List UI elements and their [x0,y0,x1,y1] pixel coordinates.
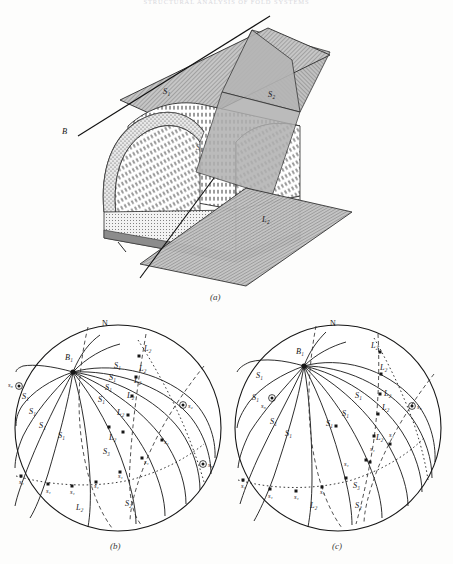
l2-label-c-1: L₂ [379,363,388,372]
s1-point-label-c-5: s₁ [370,445,375,452]
s3-label-c: S₃ [353,481,360,490]
s1-label-b-6: S₁ [39,421,46,430]
north-label-b: N [102,319,108,328]
north-label-c: N [330,319,336,328]
s1-point-label-c-4: s₁ [344,460,349,467]
s1-label-c-4: S₁ [355,391,362,400]
b1-axis-point-c [301,363,306,368]
s2-point-label-c: s₂ [417,403,423,410]
s2-point-label-b: s₂ [188,402,194,409]
b1-label-c: B₁ [296,347,304,356]
s1-label-c-0: S₁ [256,371,263,380]
l2-label-c-2: L₂ [383,389,392,398]
s3-label-b: S₃ [103,447,110,456]
b1-label-b: B₁ [65,353,73,362]
l2-label-b-6: L₂ [75,503,84,512]
b-axis-label: B [62,127,67,136]
s1-point-label-b-0: s₁ [19,478,24,485]
l2-label-c-0: L₂ [370,341,379,350]
s1-point-label-b-3: s₁ [94,482,99,489]
l2-label-b-2: L₂ [133,376,142,385]
l2-label-b-4: L₂ [116,408,125,417]
corner-tick [118,242,126,252]
s2-label-b: S₂ [125,499,132,508]
stereonet-c-figure: N B₁ S₁ S₁ S₁ S₁ S₁ S₁ S₁ L₂ L₂ L₂ L₂ L₂… [228,318,448,538]
caption-c: (c) [332,541,342,551]
s1-point-label-b-6: s₁ [164,438,169,445]
s1-label-c-1: S₁ [252,393,259,402]
s2-label-c: S₂ [355,501,362,510]
s3-point-left [16,383,23,390]
s1-point-label-c-1: s₁ [268,492,273,499]
s3-point-label-b-1: s₃ [208,461,214,468]
s1-label-b-5: S₁ [29,407,36,416]
l2-label-b-3: L₂ [126,391,135,400]
s1-point-label-c-6: s₁ [389,431,394,438]
s1-label-b-2: S₁ [105,383,112,392]
l2-label-b-5: L₂ [108,433,117,442]
s1-folded-surface-label: S₁ [196,143,203,152]
caption-b: (b) [110,541,121,551]
s1-plane-label: S₁ [163,87,170,96]
l2-lineation-label: L₂ [261,215,270,224]
s2-plane-label: S₂ [268,90,275,99]
s1-point-label-b-1: s₁ [46,487,51,494]
l2-label-c-5: L₂ [309,501,318,510]
primitive-circle-c [235,325,441,531]
s1-label-b-3: S₁ [98,395,105,404]
s1-label-b-0: S₁ [114,361,121,370]
s1-label-c-5: S₁ [342,409,349,418]
s3-point-label-b-0: s₃ [8,381,14,388]
l2-label-c-3: L₂ [381,403,390,412]
caption-a: (a) [210,292,221,302]
s1-point-label-c-0: s₁ [241,482,246,489]
s1-label-b-4: S₁ [22,392,29,401]
s1-point-label-b-2: s₁ [70,488,75,495]
l2-label-b-1: L₂ [138,364,147,373]
s1-point-label-c-2: s₁ [294,493,299,500]
s1-label-b-7: S₁ [58,431,65,440]
s1-label-c-3: S₁ [285,429,292,438]
block-diagram-figure: S₁ S₁ S₂ [0,0,453,300]
s1-point-label-c-3: s₁ [320,488,325,495]
l2-label-c-4: L₂ [375,433,384,442]
stereonet-b-figure: N B₁ S₁ S₁ S₁ S₁ S₁ S₁ S₁ S₁ L₂ L₂ L₂ L₂… [8,318,228,538]
b1-axis-point-b [70,369,75,374]
s1-label-b-1: S₁ [109,373,116,382]
figure-page: STRUCTURAL ANALYSIS OF FOLD SYSTEMS [0,0,453,564]
s1-label-c-2: S₁ [270,417,277,426]
s3-point-label-c: s₃ [261,402,267,409]
s1-point-label-b-5: s₁ [144,458,149,465]
s1-label-c-6: S₁ [326,419,333,428]
s1-point-label-b-4: s₁ [118,472,123,479]
l2-label-b-0: L₂ [143,344,152,353]
